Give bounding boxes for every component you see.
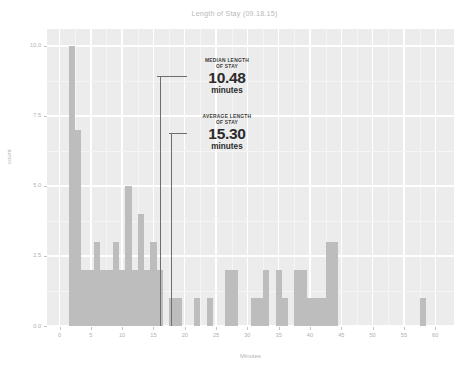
average-annotation-value: 15.30 xyxy=(184,126,270,142)
gridline-major-horizontal xyxy=(47,255,454,256)
y-tick-label: 5.0 xyxy=(33,182,41,188)
histogram-bar xyxy=(282,298,288,326)
x-tick-label: 5 xyxy=(89,332,92,338)
average-leader-horizontal xyxy=(169,133,187,134)
y-tick-label: 0.0 xyxy=(33,323,41,329)
gridline-minor-vertical xyxy=(169,29,170,326)
x-tick-mark xyxy=(185,327,186,330)
histogram-bar xyxy=(332,242,338,326)
gridline-major-vertical xyxy=(59,29,60,326)
average-annotation-unit: minutes xyxy=(184,142,270,152)
x-tick-label: 55 xyxy=(401,332,407,338)
average-reference-line xyxy=(171,133,172,326)
x-tick-label: 30 xyxy=(244,332,250,338)
gridline-major-horizontal xyxy=(47,185,454,186)
x-tick-label: 10 xyxy=(119,332,125,338)
histogram-bar xyxy=(175,298,181,326)
x-tick-label: 35 xyxy=(276,332,282,338)
histogram-bar xyxy=(232,270,238,326)
x-tick-mark xyxy=(435,327,436,330)
chart-figure: Length of Stay (09.18.15) 0.02.55.07.510… xyxy=(0,0,469,381)
x-tick-mark xyxy=(153,327,154,330)
y-axis-label: count xyxy=(6,149,12,164)
gridline-major-vertical xyxy=(372,29,373,326)
y-tick-mark xyxy=(44,256,47,257)
histogram-bar xyxy=(194,298,200,326)
x-tick-mark xyxy=(310,327,311,330)
y-tick-mark xyxy=(44,186,47,187)
gridline-minor-vertical xyxy=(388,29,389,326)
gridline-major-vertical xyxy=(435,29,436,326)
y-tick-mark xyxy=(44,46,47,47)
x-tick-mark xyxy=(60,327,61,330)
x-tick-mark xyxy=(373,327,374,330)
y-tick-mark xyxy=(44,326,47,327)
x-tick-mark xyxy=(404,327,405,330)
gridline-major-vertical xyxy=(341,29,342,326)
x-tick-label: 50 xyxy=(369,332,375,338)
y-tick-label: 10.0 xyxy=(30,42,41,48)
histogram-bar xyxy=(420,298,426,326)
x-tick-label: 45 xyxy=(338,332,344,338)
median-leader-horizontal xyxy=(157,76,187,77)
gridline-minor-vertical xyxy=(357,29,358,326)
x-tick-label: 25 xyxy=(213,332,219,338)
x-tick-label: 15 xyxy=(150,332,156,338)
y-tick-mark xyxy=(44,116,47,117)
gridline-minor-horizontal xyxy=(47,221,454,222)
x-tick-mark xyxy=(122,327,123,330)
median-annotation-value: 10.48 xyxy=(184,70,270,86)
gridline-major-horizontal xyxy=(47,45,454,46)
x-tick-mark xyxy=(341,327,342,330)
histogram-bar xyxy=(263,270,269,326)
gridline-major-vertical xyxy=(309,29,310,326)
chart-title: Length of Stay (09.18.15) xyxy=(0,9,469,18)
x-tick-label: 0 xyxy=(58,332,61,338)
x-tick-mark xyxy=(91,327,92,330)
y-tick-label: 2.5 xyxy=(33,252,41,258)
gridline-minor-vertical xyxy=(420,29,421,326)
average-annotation: AVERAGE LENGTH OF STAY 15.30 minutes xyxy=(184,114,270,152)
x-tick-mark xyxy=(279,327,280,330)
median-annotation: MEDIAN LENGTH OF STAY 10.48 minutes xyxy=(184,58,270,96)
gridline-major-vertical xyxy=(403,29,404,326)
x-tick-label: 20 xyxy=(182,332,188,338)
y-tick-label: 7.5 xyxy=(33,112,41,118)
median-annotation-unit: minutes xyxy=(184,86,270,96)
histogram-bar xyxy=(207,298,213,326)
x-tick-label: 60 xyxy=(432,332,438,338)
x-tick-mark xyxy=(247,327,248,330)
x-tick-mark xyxy=(216,327,217,330)
x-tick-label: 40 xyxy=(307,332,313,338)
median-reference-line xyxy=(160,76,161,326)
x-axis-label: Minutes xyxy=(47,353,454,359)
